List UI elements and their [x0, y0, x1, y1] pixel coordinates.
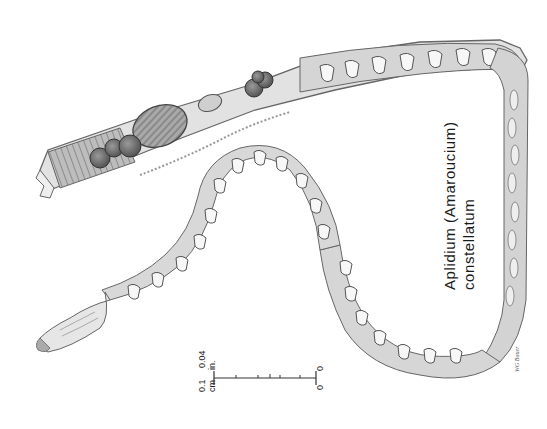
scale-left-unit: cm — [207, 380, 217, 392]
scale-left-value: 0.1 — [197, 379, 207, 392]
species-label: Aplidium (Amaroucium) constellatum — [440, 122, 478, 290]
artist-signature: WG Bauer — [514, 347, 520, 373]
scale-right-value: 0.04 — [197, 350, 207, 368]
scale-bottom-upper-zero: 0 — [315, 366, 325, 371]
postabdomen-arch — [102, 146, 340, 301]
species-label-line1: Aplidium (Amaroucium) — [440, 122, 459, 290]
postabdomen-right — [482, 48, 528, 362]
scale-right-unit: in. — [207, 360, 217, 370]
scale-bar — [214, 371, 316, 385]
species-label-line2: constellatum — [459, 122, 478, 290]
terminal-bulb — [36, 292, 110, 352]
scale-bottom-lower-zero: 0 — [315, 385, 325, 390]
postabdomen-upper — [300, 43, 520, 92]
